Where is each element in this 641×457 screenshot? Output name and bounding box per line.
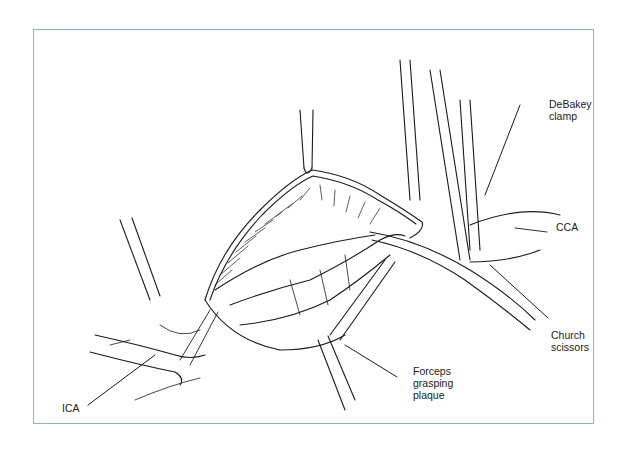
label-ica: ICA: [62, 402, 80, 414]
cca-vessel: [470, 212, 560, 262]
surgical-illustration: [0, 0, 641, 457]
label-cca: CCA: [556, 221, 578, 233]
label-debakey-clamp: DeBakey clamp: [549, 98, 592, 122]
forceps: [318, 260, 397, 410]
opened-artery: [205, 170, 423, 350]
label-church-scissors: Church scissors: [551, 329, 589, 353]
ica-vessel: [88, 218, 218, 405]
debakey-clamp: [400, 60, 520, 260]
retractor-top: [300, 110, 313, 173]
church-scissors: [370, 232, 548, 330]
label-forceps-grasping-plaque: Forceps grasping plaque: [413, 365, 453, 401]
plaque: [230, 235, 405, 325]
